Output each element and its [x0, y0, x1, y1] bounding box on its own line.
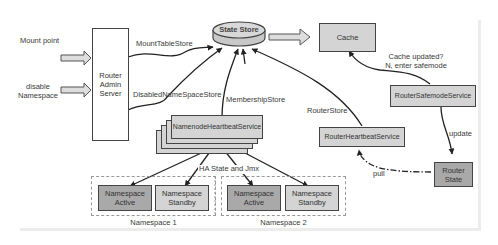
router-store-label: RouterStore	[307, 107, 347, 116]
namespace-1-active-box: Namespace Active	[98, 185, 152, 211]
cache-box: Cache	[319, 23, 376, 52]
router-heartbeat-service-box: RouterHeartbeatService	[319, 127, 405, 147]
namenode-heartbeat-service-box: NamenodeHeartbeatService	[171, 115, 263, 139]
pull-label: pull	[373, 170, 385, 179]
namespace-1-standby-box: Namespace Standby	[155, 185, 209, 211]
mount-table-store-label: MountTableStore	[136, 40, 193, 49]
router-admin-server-box: Router Admin Server	[92, 28, 129, 141]
router-architecture-diagram: Mount point disable Namespace Router Adm…	[0, 0, 498, 245]
disable-namespace-label: disable Namespace	[18, 83, 58, 100]
update-label: update	[449, 130, 472, 139]
ha-state-jmx-label: HA State and Jmx	[198, 165, 260, 174]
namespace-2-label: Namespace 2	[221, 219, 346, 228]
router-safemode-service-box: RouterSafemodeService	[390, 85, 476, 107]
namespace-2-standby-box: Namespace Standby	[285, 185, 339, 211]
mount-point-label: Mount point	[20, 37, 59, 46]
state-store-to-cache-arrow	[269, 29, 310, 45]
namespace-1-label: Namespace 1	[91, 219, 216, 228]
disable-namespace-arrow	[61, 83, 91, 97]
cache-updated-label: Cache updated? N, enter safemode	[381, 53, 451, 70]
router-state-box: Router State	[434, 162, 473, 187]
disabled-namespace-store-label: DisabledNameSpaceStore	[133, 91, 221, 100]
mount-point-arrow	[61, 51, 91, 65]
state-store-label: State Store	[213, 26, 265, 35]
membership-store-label: MembershipStore	[226, 96, 285, 105]
namespace-2-active-box: Namespace Active	[227, 185, 281, 211]
